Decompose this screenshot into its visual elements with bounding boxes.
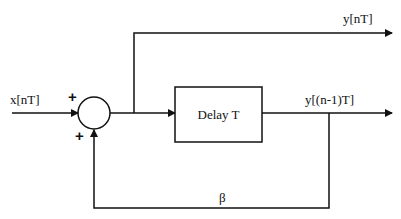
input-label: x[nT] — [10, 92, 40, 107]
block-diagram: x[nT] + + y[nT] Delay T y[(n-1)T] β — [0, 0, 401, 219]
plus-sign-feedback: + — [75, 127, 84, 144]
delay-block-label: Delay T — [198, 107, 240, 122]
delayed-output-label: y[(n-1)T] — [305, 92, 354, 107]
plus-sign-input: + — [68, 88, 77, 105]
summing-junction — [78, 97, 110, 129]
output-label: y[nT] — [343, 11, 373, 26]
feedback-gain-label: β — [219, 190, 226, 205]
